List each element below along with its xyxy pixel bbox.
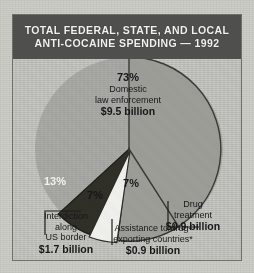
label-domestic-percent: 73% bbox=[60, 71, 196, 84]
label-assistance-amount: $0.9 billion bbox=[93, 244, 213, 257]
label-domestic-name-1: Domestic bbox=[60, 84, 196, 95]
label-treatment-name-1: Drug bbox=[141, 199, 242, 210]
label-interdiction-percent: 13% bbox=[25, 175, 85, 188]
label-interdiction-name-1: Interdiction bbox=[12, 211, 121, 222]
label-domestic-law-enforcement: 73% Domestic law enforcement $9.5 billio… bbox=[60, 71, 196, 118]
label-drug-treatment: Drug treatment $0.9 billion bbox=[141, 199, 242, 233]
label-assistance-percent-wrap: 7% bbox=[75, 189, 115, 202]
label-treatment-name-2: treatment bbox=[141, 210, 242, 221]
chart-title-line-1: TOTAL FEDERAL, STATE, AND LOCAL bbox=[25, 24, 230, 37]
chart-title-bar: TOTAL FEDERAL, STATE, AND LOCAL ANTI-COC… bbox=[13, 15, 241, 59]
chart-title-line-2: ANTI-COCAINE SPENDING — 1992 bbox=[34, 37, 219, 50]
label-assistance-percent: 7% bbox=[75, 189, 115, 202]
label-interdiction-percent-wrap: 13% bbox=[25, 175, 85, 188]
label-treatment-percent-wrap: 7% bbox=[111, 177, 151, 190]
label-treatment-percent: 7% bbox=[111, 177, 151, 190]
chart-figure: TOTAL FEDERAL, STATE, AND LOCAL ANTI-COC… bbox=[12, 14, 242, 261]
label-domestic-name-2: law enforcement bbox=[60, 95, 196, 106]
chart-plot-area: 73% Domestic law enforcement $9.5 billio… bbox=[13, 59, 241, 260]
label-domestic-amount: $9.5 billion bbox=[60, 105, 196, 118]
label-assistance-name-2: exporting countries* bbox=[93, 234, 213, 245]
label-treatment-amount: $0.9 billion bbox=[141, 220, 242, 233]
